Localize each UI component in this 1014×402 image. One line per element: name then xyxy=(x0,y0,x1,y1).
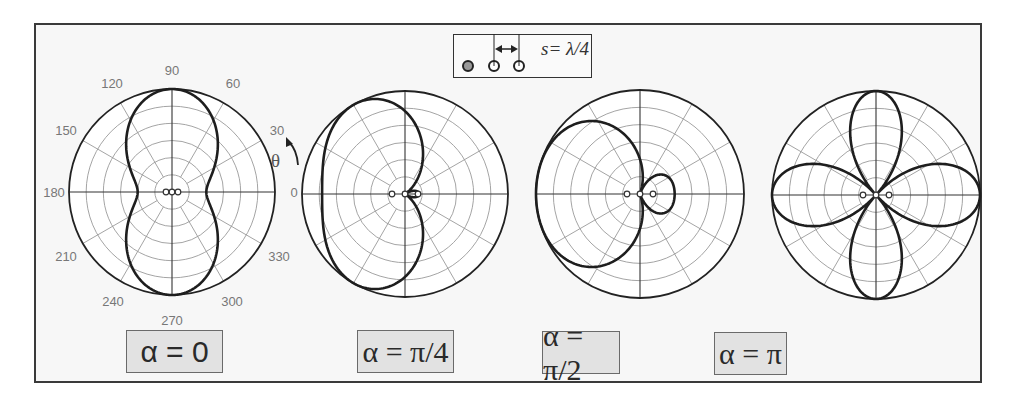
angle-label-30: 30 xyxy=(270,123,284,138)
polar-plot-1 xyxy=(302,91,508,297)
angle-label-210: 210 xyxy=(55,249,77,264)
array-element-icon xyxy=(873,192,879,198)
array-element-icon xyxy=(402,191,408,197)
alpha-label-pi-4: α = π/4 xyxy=(357,330,454,373)
polar-plot-2 xyxy=(536,90,744,298)
array-element-icon xyxy=(415,191,421,197)
angle-label-180: 180 xyxy=(43,185,65,200)
array-element-icon xyxy=(624,191,630,197)
theta-direction-arrow-icon xyxy=(286,137,298,165)
array-element-icon xyxy=(389,191,395,197)
alpha-label-0: α = 0 xyxy=(126,330,223,373)
angle-label-90: 90 xyxy=(165,63,179,78)
array-element-icon xyxy=(163,189,169,195)
array-element-icon xyxy=(650,191,656,197)
alpha-label-pi: α = π xyxy=(714,332,787,375)
angle-label-240: 240 xyxy=(102,294,124,309)
array-elements-icon xyxy=(463,34,524,71)
angle-label-60: 60 xyxy=(226,76,240,91)
polar-plot-0 xyxy=(69,89,275,295)
angle-label-270: 270 xyxy=(161,313,183,328)
angle-label-330: 330 xyxy=(268,249,290,264)
array-element-icon xyxy=(860,192,866,198)
alpha-label-pi-2: α = π/2 xyxy=(542,331,620,374)
polar-plot-3 xyxy=(772,91,980,299)
angle-label-0: 0 xyxy=(290,185,297,200)
array-element-icon xyxy=(169,189,175,195)
theta-symbol: θ xyxy=(271,150,280,172)
array-element-icon xyxy=(175,189,181,195)
array-element-icon xyxy=(886,192,892,198)
angle-label-150: 150 xyxy=(55,123,77,138)
array-element-icon xyxy=(637,191,643,197)
angle-label-120: 120 xyxy=(101,76,123,91)
angle-label-300: 300 xyxy=(221,294,243,309)
